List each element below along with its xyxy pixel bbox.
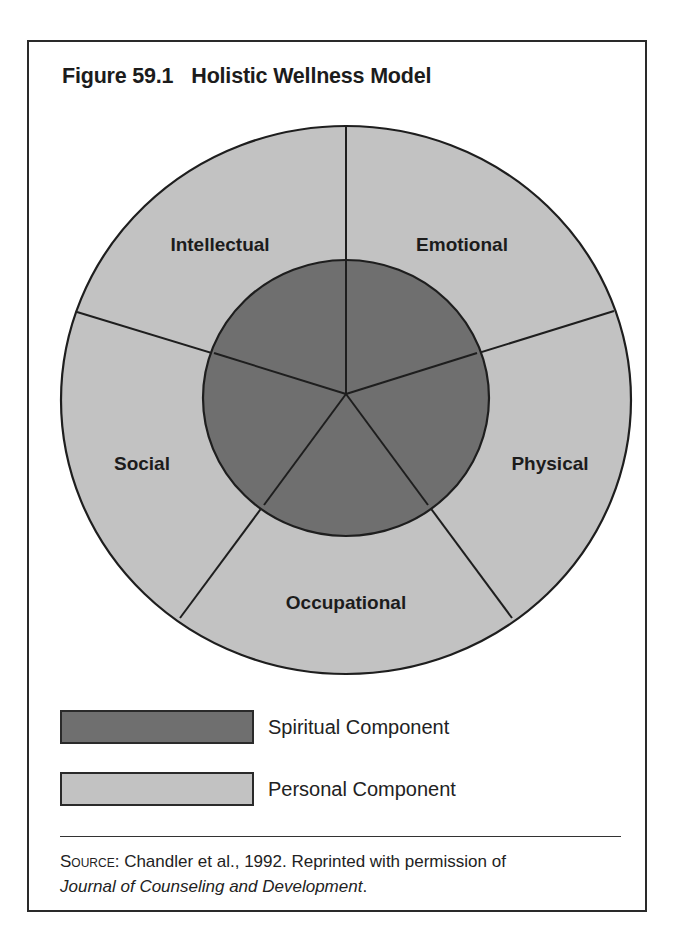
segment-label-social: Social bbox=[114, 453, 170, 474]
legend-label-spiritual: Spiritual Component bbox=[268, 716, 449, 739]
segment-label-emotional: Emotional bbox=[416, 234, 508, 255]
legend-swatch-spiritual bbox=[60, 710, 254, 744]
source-note: Source: Chandler et al., 1992. Reprinted… bbox=[60, 849, 630, 899]
legend-swatch-personal bbox=[60, 772, 254, 806]
source-suffix: . bbox=[362, 877, 367, 896]
segment-label-intellectual: Intellectual bbox=[170, 234, 269, 255]
source-divider bbox=[60, 836, 621, 837]
source-journal: Journal of Counseling and Development bbox=[60, 877, 362, 896]
legend-label-personal: Personal Component bbox=[268, 778, 456, 801]
segment-label-occupational: Occupational bbox=[286, 592, 406, 613]
source-prefix: Source bbox=[60, 852, 115, 871]
source-text: : Chandler et al., 1992. Reprinted with … bbox=[115, 852, 506, 871]
segment-label-physical: Physical bbox=[511, 453, 588, 474]
